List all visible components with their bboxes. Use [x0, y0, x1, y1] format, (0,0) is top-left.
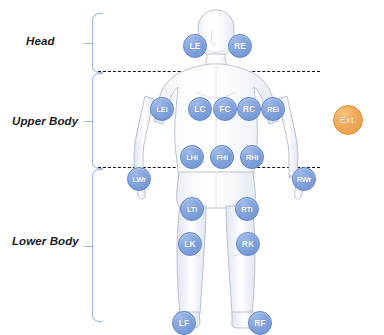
sensor-node-label: LF [179, 318, 189, 328]
sensor-node-label: RHi [246, 153, 258, 162]
external-node-label: Ext. [340, 115, 357, 125]
sensor-node-label: LK [184, 239, 195, 249]
human-body-figure [118, 6, 314, 330]
sensor-node-label: LHi [186, 153, 198, 162]
sensor-node-rc[interactable]: RC [237, 97, 261, 121]
bracket-lower-body [92, 169, 103, 322]
sensor-node-rhi[interactable]: RHi [240, 145, 264, 169]
sensor-node-label: FC [219, 104, 230, 114]
sensor-node-label: RE [234, 41, 246, 51]
sensor-node-label: RF [254, 318, 265, 328]
sensor-node-rwr[interactable]: RWr [292, 167, 316, 191]
sensor-node-lwr[interactable]: LWr [127, 167, 151, 191]
sensor-node-lhi[interactable]: LHi [180, 145, 204, 169]
sensor-node-lti[interactable]: LTi [180, 197, 204, 221]
sensor-node-re[interactable]: RE [228, 34, 252, 58]
sensor-node-lel[interactable]: LEl [150, 97, 174, 121]
sensor-node-label: FHi [216, 153, 228, 162]
sensor-node-label: LTi [187, 205, 197, 214]
sensor-node-label: RC [243, 104, 255, 114]
sensor-node-label: RWr [297, 175, 312, 184]
sensor-node-rk[interactable]: RK [236, 232, 260, 256]
sensor-node-fc[interactable]: FC [213, 97, 237, 121]
region-label-upper-body: Upper Body [12, 115, 78, 127]
sensor-node-label: LWr [132, 175, 146, 184]
region-label-lower-body: Lower Body [12, 235, 79, 247]
sensor-node-fhi[interactable]: FHi [210, 145, 234, 169]
sensor-node-label: RTi [241, 205, 253, 214]
bracket-head [92, 13, 103, 73]
bracket-upper-body [92, 73, 103, 169]
sensor-node-label: LC [194, 104, 205, 114]
sensor-node-le[interactable]: LE [183, 34, 207, 58]
region-label-head: Head [26, 35, 55, 47]
body-sensor-placement-diagram: Head Upper Body Lower Body [0, 0, 384, 335]
external-node-ext[interactable]: Ext. [333, 105, 363, 135]
sensor-node-label: REl [267, 105, 279, 114]
sensor-node-label: LEl [156, 105, 167, 114]
sensor-node-rel[interactable]: REl [261, 97, 285, 121]
sensor-node-lc[interactable]: LC [188, 97, 212, 121]
sensor-node-rf[interactable]: RF [248, 311, 272, 335]
sensor-node-lk[interactable]: LK [178, 232, 202, 256]
sensor-node-lf[interactable]: LF [172, 311, 196, 335]
sensor-node-label: RK [242, 239, 254, 249]
sensor-node-label: LE [190, 41, 201, 51]
sensor-node-rti[interactable]: RTi [235, 197, 259, 221]
